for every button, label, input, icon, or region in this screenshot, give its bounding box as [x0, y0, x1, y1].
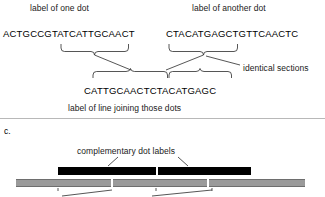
connector-line-right: [166, 55, 204, 70]
brace-upper-left: [61, 44, 129, 55]
complementary-dot-label-right: [158, 167, 251, 175]
label-of-one-dot: label of one dot: [30, 3, 89, 13]
connector-line-left: [95, 55, 132, 70]
brace-upper-right: [169, 44, 238, 55]
sequence-joining-line: CATTGCAACTCTACATGAGC: [84, 85, 216, 96]
complementary-dot-label-left: [58, 167, 156, 175]
leader-line-identical-sections: [206, 56, 240, 65]
leader-line-left-black-bar: [108, 157, 118, 166]
label-complementary-dot-labels: complementary dot labels: [77, 146, 175, 156]
figure-root: label of one dot label of another dot AC…: [0, 0, 325, 197]
label-of-another-dot: label of another dot: [192, 3, 266, 13]
label-identical-sections: identical sections: [243, 63, 309, 73]
brace-lower-right: [169, 69, 232, 79]
brace-lower-left: [93, 69, 168, 79]
segment-tick-leader-lines: [0, 188, 325, 197]
leader-line-segment-left: [62, 190, 112, 196]
leader-line-right-black-bar: [178, 157, 188, 166]
panel-c-letter: c.: [4, 126, 11, 136]
genome-segment-2: [113, 179, 207, 187]
panel-divider: [0, 118, 325, 119]
genome-segment-1: [16, 179, 111, 187]
sequence-right-dot: CTACATGAGCTGTTCAACTC: [166, 28, 298, 39]
genome-segment-3: [209, 179, 305, 187]
sequence-left-dot: ACTGCCGTATCATTGCAACT: [3, 28, 135, 39]
label-of-line-joining-those-dots: label of line joining those dots: [68, 103, 181, 113]
leader-line-segment-right: [152, 190, 212, 196]
